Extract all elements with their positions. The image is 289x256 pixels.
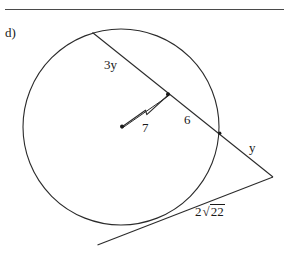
radical-sign-icon: √ [202,205,210,218]
secant-line [93,33,274,178]
label-chord-near-6: 6 [184,113,191,126]
label-chord-far-3y: 3y [104,58,117,71]
radicand-value: 22 [210,204,225,218]
chord-midpoint-dot [166,92,170,96]
label-tangent-length: 2√22 [195,204,225,218]
circle-center-dot [120,125,124,129]
geometry-figure-page: d) 3y 7 6 y 2√22 [0,0,289,256]
radical-expression: 2√22 [195,204,225,218]
tangent-line [98,177,274,245]
label-radius-7: 7 [142,121,149,134]
secant-exit-dot [218,132,221,135]
label-external-secant-y: y [249,141,256,154]
